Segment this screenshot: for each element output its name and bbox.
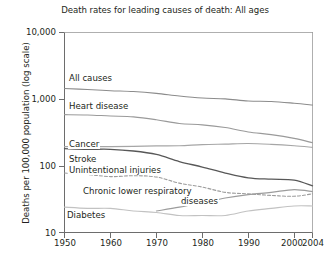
series-label-unintentional-injuries: Unintentional injuries [68,165,162,175]
series-label-all-causes: All causes [68,73,113,83]
plot-area [0,0,330,274]
series-line-heart-disease [65,115,313,143]
chart-figure: Death rates for leading causes of death:… [0,0,330,274]
series-label-cancer: Cancer [68,139,100,149]
x-tick-label-2000: 2000 [281,238,303,248]
x-tick-label-1990: 1990 [238,238,260,248]
series-label-diabetes: Diabetes [66,210,106,220]
series-label-stroke: Stroke [68,154,97,164]
x-tick-label-1980: 1980 [192,238,214,248]
x-tick-label-2004: 2004 [302,238,324,248]
series-label-chronic-lower-respiratory-diseases-line2: diseases [82,196,219,206]
x-tick-label-1960: 1960 [100,238,122,248]
series-label-chronic-lower-respiratory-diseases-line1: Chronic lower respiratory [82,186,193,196]
series-line-cancer [65,144,313,148]
series-label-heart-disease: Heart disease [68,101,129,111]
x-tick-label-1970: 1970 [146,238,168,248]
x-tick-label-1950: 1950 [54,238,76,248]
